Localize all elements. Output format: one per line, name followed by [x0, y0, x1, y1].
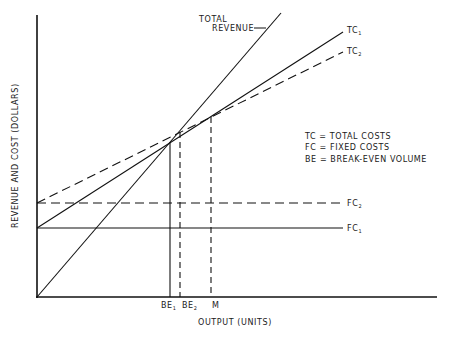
total-revenue-line — [37, 13, 281, 297]
tc2-line — [37, 52, 343, 203]
legend-tc: TC = TOTAL COSTS — [304, 132, 391, 141]
x-axis-title: OUTPUT (UNITS) — [198, 318, 272, 327]
legend-fc: FC = FIXED COSTS — [305, 143, 390, 152]
legend-be: BE = BREAK-EVEN VOLUME — [305, 155, 427, 164]
fc1-label: FC1 — [347, 224, 362, 234]
y-axis-title: REVENUE AND COST (DOLLARS) — [11, 83, 20, 228]
break-even-chart: TOTAL REVENUE TC1 TC2 FC2 FC1 TC = TOTAL… — [0, 0, 460, 343]
m-tick-label: M — [212, 301, 220, 310]
total-revenue-label-line1: TOTAL — [198, 15, 227, 24]
be2-tick-label: BE2 — [182, 301, 198, 311]
tc1-line — [37, 32, 343, 228]
fc2-label: FC2 — [347, 199, 362, 209]
total-revenue-label-line2: REVENUE — [212, 24, 254, 33]
tc2-label: TC2 — [346, 47, 362, 57]
tc1-label: TC1 — [346, 26, 362, 36]
be1-tick-label: BE1 — [161, 301, 177, 311]
